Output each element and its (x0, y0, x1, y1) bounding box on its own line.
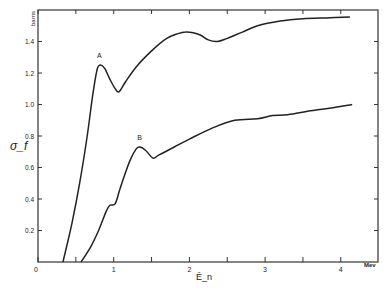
y-axis-label: σ_f (10, 139, 29, 153)
y-tick-label: 0.4 (25, 196, 34, 203)
y-tick-label: 1.0 (25, 101, 34, 108)
curve-a (63, 17, 350, 262)
y-tick-label: 0.2 (25, 227, 34, 234)
annotation-b: B (137, 134, 142, 141)
curves: AB (63, 17, 352, 262)
curve-b (81, 105, 352, 263)
plot-frame (38, 10, 378, 262)
y-tick-label: 1.2 (25, 70, 34, 77)
y-axis: 0.20.40.60.81.01.21.4 (25, 38, 378, 234)
y-tick-label: 1.4 (25, 38, 34, 45)
axis-labels: σ_f barns Ē_n Mev (10, 11, 376, 282)
y-tick-label: 0.6 (25, 164, 34, 171)
x-axis-unit: Mev (364, 262, 376, 268)
fission-cross-section-chart: 01234 0.20.40.60.81.01.21.4 AB σ_f barns… (0, 0, 387, 288)
x-tick-label: 0 (34, 266, 38, 273)
x-axis-label: Ē_n (196, 272, 212, 282)
annotation-a: A (97, 52, 102, 59)
x-tick-label: 1 (112, 266, 116, 273)
x-tick-label: 4 (339, 266, 343, 273)
x-tick-label: 3 (263, 266, 267, 273)
y-axis-unit: barns (30, 11, 36, 26)
x-axis: 01234 (34, 10, 343, 273)
x-tick-label: 2 (187, 266, 191, 273)
